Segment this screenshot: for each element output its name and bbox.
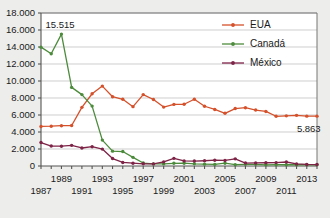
data-point: [39, 141, 42, 144]
data-point: [254, 161, 257, 164]
data-point: [121, 161, 124, 164]
data-point: [162, 160, 165, 163]
annotation-end-value: 5.863: [297, 123, 321, 134]
data-point: [101, 147, 104, 150]
data-point: [234, 157, 237, 160]
data-point: [39, 45, 42, 48]
data-point: [295, 114, 298, 117]
y-tick-label: 14.000: [6, 41, 35, 52]
data-point: [131, 105, 134, 108]
legend-label: EUA: [250, 19, 271, 30]
data-point: [70, 86, 73, 89]
data-point: [80, 146, 83, 149]
data-point: [305, 114, 308, 117]
data-point: [80, 106, 83, 109]
data-point: [121, 98, 124, 101]
y-tick-label: 16.000: [6, 24, 35, 35]
x-tick-label: 2009: [255, 173, 276, 184]
data-point: [142, 93, 145, 96]
legend-label: México: [250, 57, 282, 68]
data-point: [182, 159, 185, 162]
data-point: [213, 108, 216, 111]
data-point: [234, 163, 237, 166]
data-point: [315, 163, 318, 166]
data-point: [295, 162, 298, 165]
data-point: [305, 163, 308, 166]
data-point: [80, 93, 83, 96]
data-point: [213, 159, 216, 162]
data-point: [142, 162, 145, 165]
x-tick-label: 1999: [153, 185, 174, 196]
data-point: [285, 160, 288, 163]
data-point: [121, 150, 124, 153]
y-tick-label: 6.000: [11, 109, 35, 120]
x-tick-label: 1987: [30, 185, 51, 196]
data-point: [162, 105, 165, 108]
data-point: [285, 114, 288, 117]
x-tick-label: 2013: [296, 173, 317, 184]
y-tick-label: 12.000: [6, 58, 35, 69]
y-tick-label: 0: [30, 160, 35, 171]
x-tick-label: 2011: [276, 185, 296, 196]
x-tick-label: 1989: [51, 173, 72, 184]
data-point: [203, 159, 206, 162]
data-point: [193, 98, 196, 101]
data-point: [131, 156, 134, 159]
x-tick-label: 1993: [92, 173, 113, 184]
data-point: [264, 110, 267, 113]
data-point: [274, 161, 277, 164]
legend-label: Canadá: [250, 38, 285, 49]
data-point: [213, 163, 216, 166]
data-point: [111, 149, 114, 152]
data-point: [111, 157, 114, 160]
data-point: [131, 161, 134, 164]
data-point: [50, 125, 53, 128]
legend-swatch-marker: [231, 42, 235, 46]
data-point: [50, 144, 53, 147]
data-point: [223, 112, 226, 115]
data-point: [90, 104, 93, 107]
y-tick-label: 2.000: [11, 143, 35, 154]
y-tick-label: 18.000: [6, 7, 35, 18]
legend-swatch-marker: [231, 61, 235, 65]
data-point: [172, 103, 175, 106]
data-point: [111, 95, 114, 98]
y-tick-label: 8.000: [11, 92, 35, 103]
y-tick-label: 4.000: [11, 126, 35, 137]
data-point: [70, 144, 73, 147]
x-tick-label: 1991: [71, 185, 92, 196]
data-point: [90, 145, 93, 148]
data-point: [70, 124, 73, 127]
x-tick-label: 1997: [133, 173, 154, 184]
data-point: [182, 103, 185, 106]
line-chart: 18.00016.00014.00012.00010.0008.0006.000…: [0, 0, 330, 218]
data-point: [101, 84, 104, 87]
annotation-peak-value: 15.515: [45, 19, 74, 30]
x-tick-label: 2005: [214, 173, 235, 184]
data-point: [101, 138, 104, 141]
data-point: [244, 161, 247, 164]
data-point: [274, 115, 277, 118]
data-point: [223, 159, 226, 162]
data-point: [234, 107, 237, 110]
data-point: [203, 162, 206, 165]
data-point: [60, 144, 63, 147]
x-tick-label: 2007: [235, 185, 256, 196]
data-point: [315, 114, 318, 117]
data-point: [244, 106, 247, 109]
data-point: [60, 32, 63, 35]
data-point: [172, 157, 175, 160]
data-point: [60, 124, 63, 127]
data-point: [39, 125, 42, 128]
data-point: [193, 159, 196, 162]
x-tick-label: 2003: [194, 185, 215, 196]
legend-swatch-marker: [231, 23, 235, 27]
data-point: [152, 98, 155, 101]
data-point: [152, 162, 155, 165]
x-tick-label: 1995: [112, 185, 133, 196]
chart-container: 18.00016.00014.00012.00010.0008.0006.000…: [0, 0, 330, 218]
data-point: [254, 108, 257, 111]
data-point: [90, 92, 93, 95]
x-tick-label: 2001: [174, 173, 195, 184]
data-point: [172, 162, 175, 165]
